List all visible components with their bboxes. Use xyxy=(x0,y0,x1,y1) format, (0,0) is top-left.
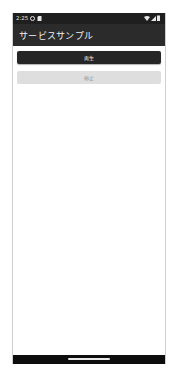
play-button-label: 再生 xyxy=(84,54,94,61)
cell-signal-icon xyxy=(151,15,156,20)
stop-button[interactable]: 停止 xyxy=(17,71,161,84)
stop-button-label: 停止 xyxy=(84,74,94,81)
play-button[interactable]: 再生 xyxy=(17,51,161,64)
settings-gear-icon xyxy=(30,15,35,20)
home-gesture-handle[interactable] xyxy=(68,358,110,360)
sd-card-icon xyxy=(37,15,42,20)
phone-screen: 2:25 サービスサンプル 再生 停止 xyxy=(12,13,166,364)
wifi-icon xyxy=(144,15,149,20)
app-bar: サービスサンプル xyxy=(13,24,165,46)
navigation-bar xyxy=(13,355,165,364)
battery-icon xyxy=(157,15,160,20)
status-time: 2:25 xyxy=(16,15,28,21)
status-bar: 2:25 xyxy=(13,13,165,24)
app-title: サービスサンプル xyxy=(19,29,93,42)
